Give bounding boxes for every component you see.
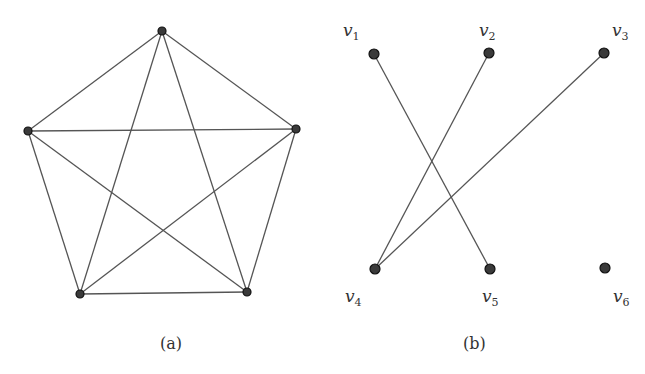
vertex-v6: [600, 263, 610, 273]
vertex-v2: [484, 48, 494, 58]
vertex: [24, 127, 32, 135]
label-v5: v5: [482, 286, 499, 309]
edge: [28, 129, 296, 131]
caption-b: (b): [463, 334, 486, 353]
edge: [28, 131, 80, 294]
edge: [247, 129, 296, 292]
label-v3: v3: [612, 20, 629, 43]
figure-canvas: (a) v1 v2 v3 v4 v5 v6 (b): [0, 0, 645, 374]
label-v6: v6: [613, 286, 630, 309]
vertex-v4: [370, 264, 380, 274]
edge: [28, 31, 162, 131]
edge: [28, 131, 247, 292]
label-v1: v1: [343, 20, 360, 43]
vertex-v3: [599, 48, 609, 58]
graph-a-k5: [24, 27, 300, 298]
vertex: [158, 27, 166, 35]
graph-b: v1 v2 v3 v4 v5 v6: [343, 20, 630, 309]
vertex-v5: [485, 264, 495, 274]
edge: [80, 292, 247, 294]
edge: [80, 31, 162, 294]
vertex: [292, 125, 300, 133]
edge: [80, 129, 296, 294]
edge-v3-v4: [375, 53, 604, 269]
edge: [162, 31, 247, 292]
vertex: [76, 290, 84, 298]
vertex: [243, 288, 251, 296]
vertex-v1: [369, 49, 379, 59]
label-v2: v2: [479, 20, 496, 43]
edge: [162, 31, 296, 129]
label-v4: v4: [345, 286, 362, 309]
caption-a: (a): [160, 334, 182, 353]
